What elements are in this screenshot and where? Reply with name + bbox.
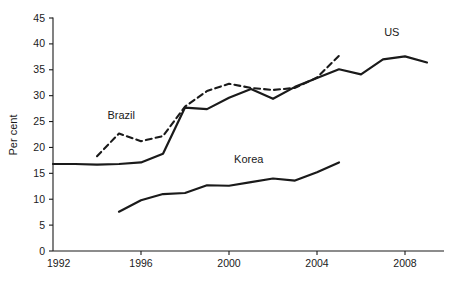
- series-label-korea: Korea: [234, 153, 264, 165]
- x-tick-label: 2008: [393, 257, 417, 269]
- y-tick-label: 25: [33, 115, 45, 127]
- x-tick-label: 1992: [47, 257, 71, 269]
- x-tick-label: 2000: [217, 257, 241, 269]
- line-chart: 051015202530354045 19921996200020042008 …: [0, 0, 449, 282]
- data-series-group: [53, 56, 427, 212]
- y-tick-label: 0: [39, 245, 45, 257]
- chart-container: 051015202530354045 19921996200020042008 …: [0, 0, 449, 282]
- x-tick-label: 2004: [305, 257, 329, 269]
- y-tick-label: 20: [33, 141, 45, 153]
- y-tick-label: 10: [33, 193, 45, 205]
- y-axis: 051015202530354045: [33, 12, 53, 257]
- series-label-us: US: [384, 26, 399, 38]
- series-line-brazil: [97, 56, 339, 156]
- y-tick-label: 40: [33, 37, 45, 49]
- y-axis-title: Per cent: [7, 115, 19, 156]
- y-tick-label: 5: [39, 219, 45, 231]
- y-tick-label: 45: [33, 12, 45, 24]
- y-tick-label: 35: [33, 63, 45, 75]
- series-label-brazil: Brazil: [107, 109, 135, 121]
- y-tick-label: 30: [33, 89, 45, 101]
- x-axis: 19921996200020042008: [47, 251, 444, 269]
- series-line-korea: [119, 162, 339, 211]
- x-tick-label: 1996: [129, 257, 153, 269]
- series-labels-group: USBrazilKorea: [107, 26, 399, 165]
- y-tick-label: 15: [33, 167, 45, 179]
